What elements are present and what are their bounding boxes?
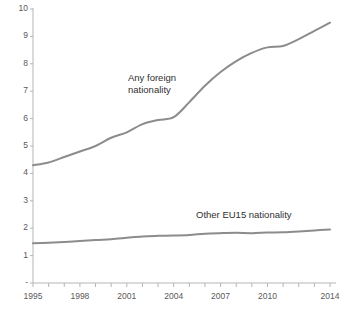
x-axis-tick-label: 2014 bbox=[310, 291, 346, 301]
chart-axes bbox=[30, 8, 336, 287]
series-line-any-foreign-nationality bbox=[33, 23, 330, 165]
series-line-other-eu15-nationality bbox=[33, 230, 330, 244]
x-axis-tick-label: 2001 bbox=[107, 291, 147, 301]
chart-container: -12345678910 Any foreign nationality Oth… bbox=[0, 0, 346, 314]
series-label-other-eu15-nationality: Other EU15 nationality bbox=[196, 209, 292, 221]
x-axis-tick-label: 2010 bbox=[247, 291, 287, 301]
x-axis-tick-label: 2004 bbox=[154, 291, 194, 301]
x-axis-tick-label: 2007 bbox=[201, 291, 241, 301]
chart-plot-area bbox=[0, 0, 346, 314]
x-axis-tick-label: 1995 bbox=[13, 291, 53, 301]
series-label-any-foreign-nationality: Any foreign nationality bbox=[128, 72, 176, 95]
x-axis-tick-label: 1998 bbox=[60, 291, 100, 301]
